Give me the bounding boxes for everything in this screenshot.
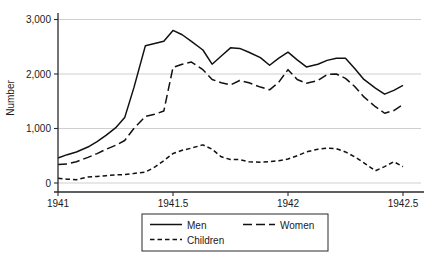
- plot-series-group: [58, 30, 403, 179]
- line-chart-figure: 01,0002,0003,000 19411941.519421942.5 Nu…: [0, 0, 427, 267]
- y-tick-label: 1,000: [26, 123, 51, 134]
- x-axis-group: 19411941.519421942.5: [47, 192, 424, 209]
- chart-canvas: 01,0002,0003,000 19411941.519421942.5 Nu…: [0, 0, 427, 267]
- series-line-women: [58, 62, 403, 164]
- series-line-men: [58, 30, 403, 158]
- series-line-children: [58, 145, 403, 180]
- legend-label-men: Men: [187, 220, 206, 231]
- gridlines-group: [58, 20, 421, 184]
- y-axis-title-group: Number: [5, 80, 16, 116]
- legend-label-women: Women: [280, 220, 314, 231]
- y-axis-group: 01,0002,0003,000: [26, 13, 58, 192]
- y-axis-title: Number: [5, 80, 16, 116]
- x-tick-label: 1942: [277, 198, 300, 209]
- legend-group: MenWomenChildren: [142, 214, 328, 251]
- x-tick-label: 1941: [47, 198, 70, 209]
- y-tick-label: 3,000: [26, 14, 51, 25]
- x-tick-label: 1942.5: [388, 198, 419, 209]
- legend-label-children: Children: [187, 235, 224, 246]
- y-tick-label: 0: [45, 178, 51, 189]
- x-tick-label: 1941.5: [158, 198, 189, 209]
- y-tick-label: 2,000: [26, 69, 51, 80]
